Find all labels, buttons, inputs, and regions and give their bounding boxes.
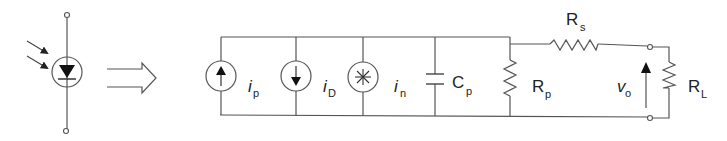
resistor-rl: R L [663, 62, 707, 100]
bottom-terminal [64, 129, 69, 134]
svg-text:R: R [566, 10, 578, 29]
svg-text:n: n [400, 87, 406, 99]
photodiode-symbol [27, 13, 82, 134]
photodiode-equivalent-circuit: i p i D i n C p [0, 0, 727, 141]
resistor-rp: R p [504, 44, 551, 116]
svg-text:D: D [328, 87, 336, 99]
arrow-up-icon [641, 62, 651, 73]
light-arrow-icon [27, 56, 47, 68]
svg-text:p: p [545, 88, 551, 100]
output-voltage-vo: v o [617, 45, 653, 121]
svg-text:p: p [466, 85, 472, 97]
light-arrow-icon [27, 41, 47, 53]
svg-text:i: i [394, 77, 399, 96]
svg-text:R: R [532, 77, 544, 96]
svg-text:L: L [701, 88, 707, 100]
capacitor-cp: C p [426, 37, 472, 116]
svg-text:R: R [688, 77, 700, 96]
svg-text:p: p [253, 87, 259, 99]
output-terminal-top [648, 45, 653, 50]
output-terminal-bottom [648, 116, 653, 121]
svg-text:s: s [580, 21, 586, 33]
noise-source-in: i n [348, 37, 406, 116]
resistor-rs: R s [550, 10, 598, 50]
svg-text:o: o [625, 87, 631, 99]
svg-text:C: C [452, 73, 464, 92]
asterisk-icon [355, 69, 371, 85]
top-terminal [65, 13, 70, 18]
current-source-id: i D [281, 37, 336, 116]
equivalence-arrow-icon [107, 63, 156, 93]
current-source-ip: i p [206, 37, 259, 115]
